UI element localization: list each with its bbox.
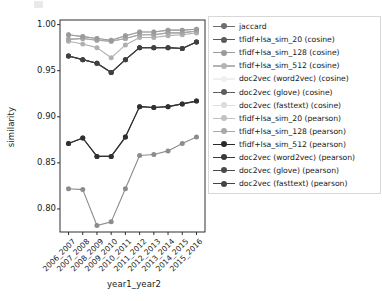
legend-item: doc2vec (word2vec) (pearson) bbox=[212, 151, 378, 164]
legend-marker-icon bbox=[212, 73, 236, 84]
legend-marker-icon bbox=[212, 60, 236, 71]
legend-marker-icon bbox=[212, 178, 236, 189]
legend-item-label: jaccard bbox=[239, 22, 267, 31]
legend-item: tfidf+lsa_sim_20 (cosine) bbox=[212, 33, 378, 46]
legend-marker-icon bbox=[212, 113, 236, 124]
legend-item-label: doc2vec (fasttext) (cosine) bbox=[239, 101, 341, 110]
legend-item: jaccard bbox=[212, 20, 378, 33]
legend-item-label: tfidf+lsa_sim_20 (cosine) bbox=[239, 35, 335, 44]
legend-item-label: doc2vec (glove) (pearson) bbox=[239, 166, 339, 175]
legend-item: tfidf+lsa_sim_128 (pearson) bbox=[212, 125, 378, 138]
legend-item: doc2vec (word2vec) (cosine) bbox=[212, 72, 378, 85]
legend-marker-icon bbox=[212, 21, 236, 32]
legend-item: doc2vec (glove) (cosine) bbox=[212, 85, 378, 98]
legend-item-label: tfidf+lsa_sim_20 (pearson) bbox=[239, 114, 341, 123]
legend-item-label: doc2vec (fasttext) (pearson) bbox=[239, 179, 347, 188]
legend-marker-icon bbox=[212, 139, 236, 150]
legend-item: doc2vec (fasttext) (cosine) bbox=[212, 99, 378, 112]
legend-marker-icon bbox=[212, 126, 236, 137]
legend-item-label: tfidf+lsa_sim_512 (pearson) bbox=[239, 140, 346, 149]
legend-item: tfidf+lsa_sim_128 (cosine) bbox=[212, 46, 378, 59]
legend-item: tfidf+lsa_sim_512 (cosine) bbox=[212, 59, 378, 72]
legend-item: tfidf+lsa_sim_512 (pearson) bbox=[212, 138, 378, 151]
legend-item-label: tfidf+lsa_sim_128 (pearson) bbox=[239, 127, 346, 136]
legend-marker-icon bbox=[212, 100, 236, 111]
x-axis-label: year1_year2 bbox=[84, 279, 184, 289]
legend-item-label: doc2vec (glove) (cosine) bbox=[239, 88, 333, 97]
legend-item-label: tfidf+lsa_sim_128 (cosine) bbox=[239, 48, 340, 57]
legend-item-label: doc2vec (word2vec) (cosine) bbox=[239, 74, 349, 83]
legend-item: doc2vec (glove) (pearson) bbox=[212, 164, 378, 177]
legend-item-label: tfidf+lsa_sim_512 (cosine) bbox=[239, 61, 340, 70]
legend-item-label: doc2vec (word2vec) (pearson) bbox=[239, 153, 355, 162]
legend-marker-icon bbox=[212, 47, 236, 58]
y-axis-label: similarity bbox=[6, 92, 16, 162]
legend-marker-icon bbox=[212, 152, 236, 163]
chart-figure: 1.000.950.900.850.80 2006_20072007_20082… bbox=[0, 0, 382, 301]
legend-marker-icon bbox=[212, 34, 236, 45]
legend-item: doc2vec (fasttext) (pearson) bbox=[212, 177, 378, 190]
legend-marker-icon bbox=[212, 87, 236, 98]
legend-marker-icon bbox=[212, 165, 236, 176]
legend-item: tfidf+lsa_sim_20 (pearson) bbox=[212, 112, 378, 125]
chart-legend: jaccardtfidf+lsa_sim_20 (cosine)tfidf+ls… bbox=[208, 16, 381, 194]
